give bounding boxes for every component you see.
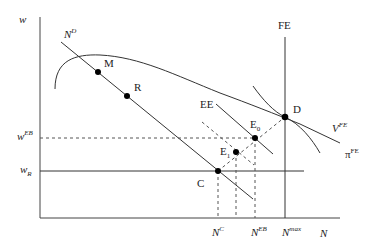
label-n-eb: NEB <box>250 225 268 238</box>
point-m <box>95 69 101 75</box>
label-fe: FE <box>278 19 291 31</box>
label-profit-fe: πFE <box>345 147 359 160</box>
value-fe-curve <box>55 55 340 143</box>
label-w-eb: wEB <box>17 129 34 142</box>
point-c <box>215 168 221 174</box>
label-w-r: wR <box>20 163 32 178</box>
labor-demand-line <box>61 42 253 199</box>
label-r: R <box>134 81 142 93</box>
label-c: C <box>197 177 204 189</box>
label-n-c: NC <box>211 225 224 238</box>
label-labor-demand: ND <box>63 27 76 40</box>
label-m: M <box>104 57 114 69</box>
label-e0: E0 <box>250 118 261 133</box>
x-axis-label: N <box>319 227 328 239</box>
label-ee: EE <box>200 98 214 110</box>
label-d: D <box>293 103 301 115</box>
label-e1: E1 <box>220 145 231 160</box>
point-e1 <box>233 149 239 155</box>
label-n-max: Nmax <box>281 225 302 238</box>
y-axis-label: w <box>19 13 27 25</box>
label-value-fe: VFE <box>332 121 348 134</box>
point-d <box>282 114 289 121</box>
labor-market-diagram: w N M R D E0 E1 C ND FE EE VFE πFE wEB w… <box>0 0 377 251</box>
point-e0 <box>252 135 258 141</box>
point-r <box>124 93 130 99</box>
